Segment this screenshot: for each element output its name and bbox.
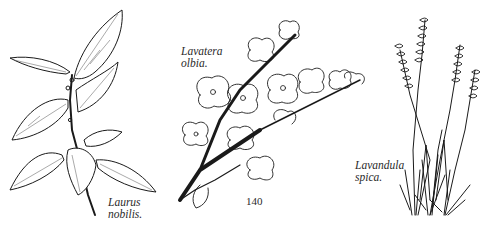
lavandula-label-species: spica. — [355, 171, 404, 183]
lavatera-label-genus: Lavatera — [181, 45, 223, 57]
lavandula-label: Lavandula spica. — [355, 159, 404, 183]
lavandula-spica-illustration — [0, 0, 486, 230]
lavatera-label: Lavatera olbia. — [181, 45, 223, 69]
lavatera-label-species: olbia. — [181, 57, 223, 69]
laurus-label: Laurus nobilis. — [108, 196, 142, 220]
page-number: 140 — [246, 195, 263, 207]
laurus-label-genus: Laurus — [108, 196, 142, 208]
botanical-page: Lavatera olbia. Laurus nobilis. Lavandul… — [0, 0, 486, 230]
laurus-label-species: nobilis. — [108, 208, 142, 220]
lavandula-label-genus: Lavandula — [355, 159, 404, 171]
